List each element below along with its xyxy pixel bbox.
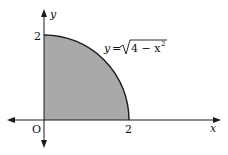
y-axis-label: y: [49, 8, 57, 21]
curve-equation-label: y = 4 − x 2: [103, 40, 167, 55]
equation-lhs: y: [103, 42, 111, 55]
equation-radicand: 4 − x: [131, 42, 161, 55]
y-tick-label: 2: [34, 30, 41, 43]
x-axis-arrow-left-icon: [7, 117, 15, 123]
equation-equals: =: [112, 42, 121, 55]
x-axis-label: x: [210, 122, 217, 135]
x-tick-label: 2: [125, 123, 132, 136]
y-axis-arrow-down-icon: [41, 140, 47, 148]
graph-canvas: y x O 2 2 y = 4 − x 2: [0, 0, 228, 155]
equation-exponent: 2: [161, 40, 165, 48]
y-axis-arrow-up-icon: [41, 9, 47, 17]
origin-label: O: [32, 123, 41, 136]
